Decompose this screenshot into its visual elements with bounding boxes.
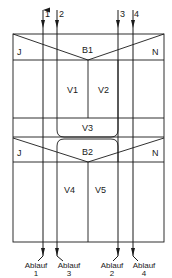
b1-right-label: N [152, 47, 159, 57]
b2-right-label: N [152, 148, 159, 158]
outer-box [13, 34, 164, 242]
b1-left-label: J [17, 47, 22, 57]
b2-center-label: B2 [82, 147, 93, 157]
outlet-arrow-1-icon [41, 248, 45, 256]
outlet-label-2: Ablauf 2 [97, 262, 127, 278]
b1-center-label: B1 [82, 45, 93, 55]
chamber-v1-label: V1 [67, 85, 78, 95]
outlet-arrow-3-icon [55, 248, 59, 256]
inlet-label-2: 2 [59, 9, 64, 19]
outlet-label-1: Ablauf 1 [21, 262, 51, 278]
inlet-arrow-1-icon [41, 20, 45, 28]
inlet-arrow-3-icon [116, 20, 120, 28]
chamber-v5-label: V5 [95, 185, 106, 195]
chamber-v4-label: V4 [64, 185, 75, 195]
outlet-label-4: Ablauf 4 [129, 262, 159, 278]
outlet-arrow-2-icon [116, 248, 120, 256]
inlet-label-3: 3 [120, 9, 125, 19]
outlet-num: 4 [129, 270, 159, 278]
inlet-label-4: 4 [134, 9, 139, 19]
b2-left-label: J [17, 148, 22, 158]
inlet-label-1: 1 [45, 9, 50, 19]
outlet-arrow-4-icon [131, 248, 135, 256]
chamber-v3-label: V3 [82, 123, 93, 133]
outlet-num: 1 [21, 270, 51, 278]
inlet-arrow-2-icon [55, 20, 59, 28]
outlet-label-3: Ablauf 3 [54, 262, 84, 278]
outlet-num: 2 [97, 270, 127, 278]
chamber-v2-label: V2 [98, 85, 109, 95]
outlet-num: 3 [54, 270, 84, 278]
inlet-arrow-4-icon [131, 20, 135, 28]
